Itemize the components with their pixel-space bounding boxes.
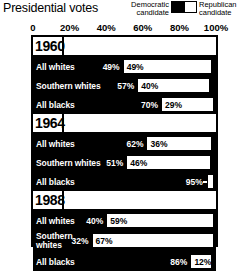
bar-row: All whites40%59%: [33, 211, 216, 230]
bar-row: All blacks70%29%: [33, 95, 216, 114]
row-label: All blacks: [36, 252, 75, 271]
republican-value: 36%: [148, 134, 167, 153]
democratic-value: 51%: [102, 153, 123, 172]
page-title: Presidential votes: [3, 1, 98, 15]
democratic-value: 62%: [122, 134, 143, 153]
year-band-1960: 1960: [33, 37, 216, 57]
year-band-1964: 1964: [33, 114, 216, 134]
republican-value: 67%: [94, 230, 113, 252]
bar-row: Southern whites32%67%: [33, 230, 216, 252]
year-label: 1960: [35, 38, 65, 54]
democratic-value: 86%: [166, 252, 187, 271]
democratic-value: 32%: [68, 230, 89, 252]
democratic-value: 57%: [113, 76, 134, 95]
leader-line: [203, 181, 207, 183]
democratic-value: 40%: [82, 211, 103, 230]
republican-value: 49%: [125, 57, 144, 76]
row-label: All blacks: [36, 95, 75, 114]
legend-democratic-label: Democratic candidate: [123, 1, 169, 18]
axis-tick-100: 100%: [204, 22, 228, 33]
axis-tick-0: 0: [30, 22, 35, 33]
plot-area: 1960All whites49%49%Southern whites57%40…: [31, 35, 218, 247]
axis-tick-20: 20%: [60, 22, 79, 33]
republican-bar: [207, 174, 214, 189]
republican-value: 46%: [128, 153, 147, 172]
row-label: All whites: [36, 57, 75, 76]
bar-row: All blacks86%12%: [33, 252, 216, 271]
legend-swatch-democratic: [172, 2, 184, 12]
legend-swatches: [171, 1, 197, 13]
legend-republican-label: Republican candidate: [199, 1, 239, 18]
democratic-value: 70%: [137, 95, 158, 114]
bar-row: All whites62%36%: [33, 134, 216, 153]
chart-legend: Democratic candidate Republican candidat…: [123, 0, 237, 20]
legend-swatch-republican: [184, 2, 197, 12]
republican-value: 29%: [163, 95, 182, 114]
year-band-1988: 1988: [33, 191, 216, 211]
bar-row: All blacks95%: [33, 172, 216, 191]
republican-value: 12%: [192, 252, 211, 271]
axis-tick-60: 60%: [133, 22, 152, 33]
republican-value: 40%: [139, 76, 158, 95]
year-label: 1964: [35, 115, 65, 131]
republican-value: 59%: [108, 211, 127, 230]
bar-row: Southern whites57%40%: [33, 76, 216, 95]
democratic-value: 95%: [165, 172, 203, 191]
axis-tick-80: 80%: [170, 22, 189, 33]
chart-header: Presidential votes Democratic candidate …: [0, 0, 237, 22]
axis-tick-40: 40%: [97, 22, 116, 33]
row-label: All whites: [36, 211, 75, 230]
row-label: All blacks: [36, 172, 75, 191]
democratic-value: 49%: [99, 57, 120, 76]
bar-row: Southern whites51%46%: [33, 153, 216, 172]
year-label: 1988: [35, 192, 65, 208]
x-axis: 020%40%60%80%100%: [0, 22, 237, 35]
row-label: Southern whites: [36, 76, 101, 95]
row-label: All whites: [36, 134, 75, 153]
row-label: Southern whites: [36, 153, 101, 172]
bar-row: All whites49%49%: [33, 57, 216, 76]
chart-rows: 1960All whites49%49%Southern whites57%40…: [33, 37, 216, 245]
